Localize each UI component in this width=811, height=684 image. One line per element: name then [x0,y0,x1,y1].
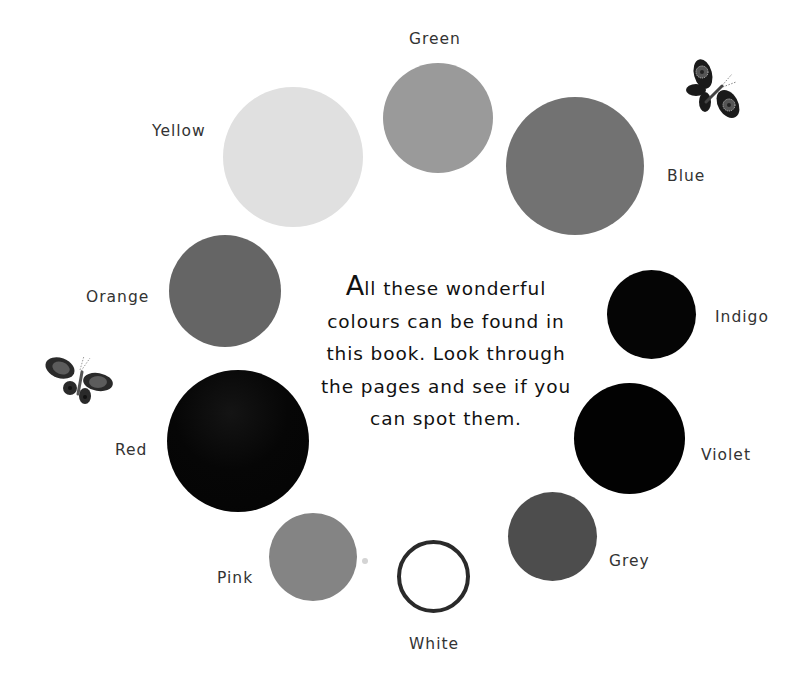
label-white: White [409,637,459,653]
label-yellow: Yellow [152,124,206,140]
swatch-grey [508,492,597,581]
label-violet: Violet [701,448,751,464]
intro-line-4: the pages and see if you [296,371,596,404]
intro-line-3: this book. Look through [296,338,596,371]
label-green: Green [409,32,461,48]
swatch-white [397,540,470,613]
swatch-indigo [607,270,696,359]
butterfly-icon [684,54,760,126]
label-orange: Orange [86,290,149,306]
swatch-green [383,63,493,173]
drop-cap: A [346,270,364,301]
speck-decoration [362,558,368,564]
colour-wheel-page: Green Blue Indigo Violet Grey White Pink… [0,0,811,684]
butterfly-icon [40,350,116,406]
intro-line-1: All these wonderful [296,270,596,306]
intro-line-5: can spot them. [296,403,596,436]
label-red: Red [115,443,147,459]
swatch-yellow [223,87,363,227]
intro-line-2: colours can be found in [296,306,596,339]
swatch-pink [269,513,357,601]
swatch-orange [169,235,281,347]
swatch-blue [506,97,644,235]
swatch-red [167,370,309,512]
label-pink: Pink [217,571,253,587]
label-indigo: Indigo [715,310,769,326]
label-grey: Grey [609,554,650,570]
label-blue: Blue [667,169,705,185]
intro-line-1-rest: ll these wonderful [364,278,546,299]
intro-text: All these wonderful colours can be found… [296,270,596,436]
